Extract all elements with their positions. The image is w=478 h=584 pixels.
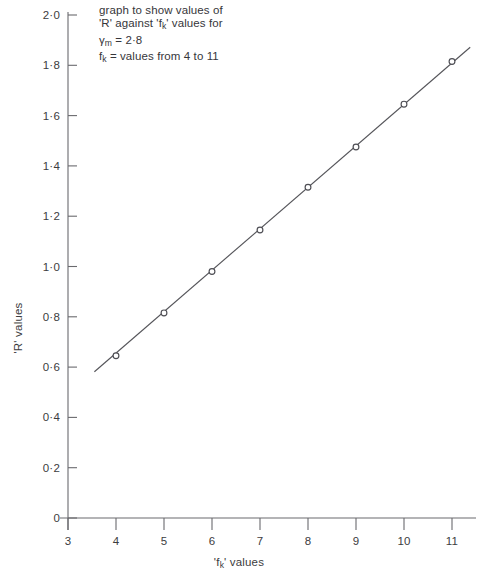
annotation-line-2-pre: 'R' against 'f [99,17,162,29]
chart-annotation: graph to show values of 'R' against 'fk'… [99,4,223,67]
x-axis-ticks [68,518,452,530]
data-point [257,227,263,233]
x-tick-label-11: 11 [446,535,458,547]
annotation-line-4-post: = values from 4 to 11 [107,50,219,62]
plot-canvas [0,0,478,584]
y-axis-ticks [68,15,77,518]
data-point [353,144,359,150]
x-axis-title: 'fk' values [0,556,478,570]
data-point [161,310,167,316]
y-tick-label-1-8: 1·8 [28,59,60,71]
data-point [209,269,215,275]
x-tick-label-9: 9 [353,535,360,547]
data-point [401,101,407,107]
data-line-series-R [94,47,470,371]
y-tick-label-0-2: 0·2 [28,462,60,474]
x-tick-label-4: 4 [113,535,120,547]
y-tick-label-1-6: 1·6 [28,110,60,122]
y-tick-label-1-4: 1·4 [28,160,60,172]
annotation-line-2-post: ' values for [166,17,222,29]
y-tick-label-0-6: 0·6 [28,361,60,373]
annotation-line-3-subscript: m [105,38,112,48]
y-axis-title: 'R' values [12,288,24,368]
chart-container: graph to show values of 'R' against 'fk'… [0,0,478,584]
y-tick-label-1-0: 1·0 [28,261,60,273]
data-point [113,353,119,359]
data-point [305,184,311,190]
x-tick-label-7: 7 [257,535,264,547]
x-tick-label-5: 5 [161,535,168,547]
x-tick-label-10: 10 [397,535,410,547]
annotation-line-3-post: = 2·8 [112,34,142,46]
annotation-line-3: γm = 2·8 [99,34,223,50]
x-axis-title-post: ' values [224,556,264,568]
annotation-line-2: 'R' against 'fk' values for [99,17,223,33]
x-tick-label-3: 3 [65,535,72,547]
y-tick-label-0-4: 0·4 [28,411,60,423]
x-tick-label-6: 6 [209,535,216,547]
y-tick-label-2-0: 2·0 [28,9,60,21]
x-tick-label-8: 8 [305,535,312,547]
y-tick-label-1-2: 1·2 [28,210,60,222]
y-tick-label-0-8: 0·8 [28,311,60,323]
annotation-line-1: graph to show values of [99,4,223,17]
annotation-line-4: fk = values from 4 to 11 [99,50,223,66]
y-tick-label-0: 0 [28,512,60,524]
data-point [449,59,455,65]
